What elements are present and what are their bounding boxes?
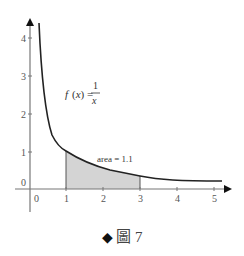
figure-caption: ◆ 圖 7 — [0, 225, 244, 246]
svg-text:0: 0 — [34, 193, 39, 204]
svg-text:3: 3 — [138, 193, 143, 204]
area-annotation: area = 1.1 — [97, 154, 133, 164]
caption-label: 圖 7 — [116, 229, 142, 245]
svg-text:3: 3 — [21, 71, 26, 82]
svg-text:x: x — [91, 95, 97, 106]
function-label: f (x) = 1 x — [65, 80, 100, 106]
svg-text:5: 5 — [212, 193, 217, 204]
svg-text:1: 1 — [93, 80, 98, 91]
svg-text:f: f — [65, 88, 70, 100]
svg-text:1: 1 — [21, 147, 26, 158]
svg-text:4: 4 — [21, 33, 26, 44]
svg-text:2: 2 — [21, 109, 26, 120]
svg-text:4: 4 — [175, 193, 180, 204]
chart-area: 012 345 012 34 f (x) = 1 x area = 1.1 — [0, 0, 244, 220]
svg-text:(x) =: (x) = — [72, 88, 93, 101]
svg-text:0: 0 — [21, 177, 26, 188]
svg-text:1: 1 — [64, 193, 69, 204]
svg-text:2: 2 — [101, 193, 106, 204]
diamond-icon: ◆ — [102, 230, 113, 245]
